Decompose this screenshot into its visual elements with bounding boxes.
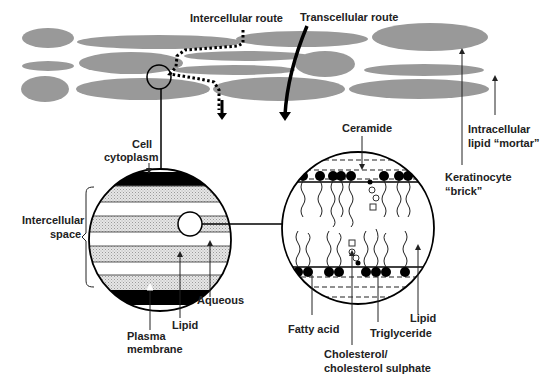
- lipid-label-right: Lipid: [410, 312, 436, 324]
- keratinocyte-brick-label-2: “brick”: [445, 185, 482, 197]
- brick: [22, 61, 74, 71]
- cholesterol-label-2: cholesterol sulphate: [324, 362, 431, 374]
- plasma-membrane-label: Plasma: [127, 330, 166, 342]
- triglyceride-label: Triglyceride: [370, 327, 432, 339]
- magnify-circle-inner: [178, 212, 202, 236]
- fatty-acid-label: Fatty acid: [288, 323, 339, 335]
- intercellular-route-label: Intercellular route: [190, 12, 283, 24]
- brick: [22, 28, 74, 48]
- keratinocyte-brick-label: Keratinocyte: [445, 171, 512, 183]
- stratum-corneum-diagram: Intercellular route Transcellular route …: [0, 0, 547, 389]
- intracellular-lipid-label: Intracellular: [468, 123, 531, 135]
- transcellular-route-label: Transcellular route: [300, 11, 398, 23]
- brick: [76, 78, 210, 100]
- ceramide-label: Ceramide: [342, 122, 392, 134]
- brick: [79, 52, 183, 74]
- brick: [184, 51, 308, 61]
- brick: [372, 23, 488, 51]
- intercellular-space-label-2: space: [50, 228, 81, 240]
- cholesterol-label: Cholesterol/: [324, 348, 388, 360]
- aqueous-label: Aqueous: [197, 294, 244, 306]
- intercellular-space-label: Intercellular: [22, 214, 85, 226]
- intracellular-arrow-icon: [492, 75, 498, 81]
- brick: [21, 76, 69, 102]
- brick: [295, 51, 355, 77]
- cell-cytoplasm-label-2: cytoplasm: [104, 151, 159, 163]
- intracellular-lipid-label-2: lipid “mortar”: [468, 137, 540, 149]
- keratinocyte-bricks: [21, 23, 489, 102]
- brick: [349, 79, 489, 99]
- lipid-label-left: Lipid: [172, 319, 198, 331]
- cell-cytoplasm-label: Cell: [132, 138, 152, 150]
- brick: [213, 77, 345, 101]
- plasma-membrane-label-2: membrane: [127, 343, 183, 355]
- brick: [173, 65, 295, 75]
- brick: [364, 64, 484, 76]
